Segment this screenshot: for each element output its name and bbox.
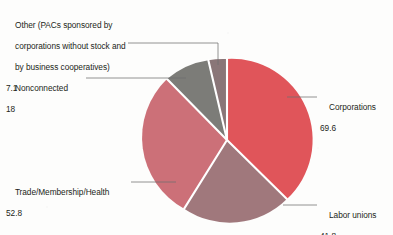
pie-label-other-line2: corporations without stock and (15, 41, 126, 51)
pie-label-corporations: Corporations 69.6 (320, 91, 376, 155)
pie-value-labor: 41.8 (320, 231, 376, 235)
pie-label-labor-text: Labor unions (329, 210, 376, 220)
pie-label-other-line1: Other (PACs sponsored by (15, 20, 112, 30)
pie-value-corporations: 69.6 (320, 123, 376, 134)
pie-label-nonconnected: Nonconnected 18 (6, 72, 68, 136)
pie-chart-figure: Other (PACs sponsored by corporations wi… (0, 0, 393, 235)
pie-label-trade-text: Trade/Membership/Health (15, 187, 109, 197)
pie-label-nonconnected-text: Nonconnected (15, 83, 68, 93)
pie-value-trade: 52.8 (6, 208, 109, 219)
pie-label-trade-membership-health: Trade/Membership/Health 52.8 (6, 176, 109, 235)
pie-label-labor-unions: Labor unions 41.8 (320, 199, 376, 235)
pie-label-corporations-text: Corporations (329, 102, 376, 112)
pie-label-other-line3: by business cooperatives) (15, 62, 110, 72)
pie-value-nonconnected: 18 (6, 104, 68, 115)
